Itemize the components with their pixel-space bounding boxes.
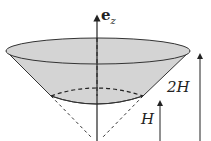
bottom-height-label: H bbox=[141, 112, 154, 127]
total-height-label: 2H bbox=[167, 80, 190, 95]
top-ellipse bbox=[6, 38, 190, 64]
axis-label-ez: ez bbox=[101, 8, 116, 26]
